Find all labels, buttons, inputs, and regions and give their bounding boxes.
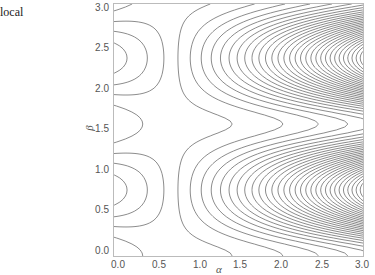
x-tick: 2.0 [269, 259, 293, 270]
caption-label: local [0, 5, 23, 20]
contour-plot [114, 4, 363, 256]
y-tick: 3.0 [89, 2, 109, 13]
y-axis-label: β [83, 125, 95, 130]
x-tick: 1.0 [188, 259, 212, 270]
y-tick: 0.5 [89, 204, 109, 215]
x-tick: 2.5 [310, 259, 334, 270]
x-axis-label: α [216, 263, 222, 275]
x-tick: 0.0 [106, 259, 130, 270]
y-tick: 1.0 [89, 164, 109, 175]
x-tick: 3.0 [350, 259, 374, 270]
y-tick: 2.0 [89, 83, 109, 94]
x-tick: 0.5 [147, 259, 171, 270]
y-tick: 2.5 [89, 42, 109, 53]
x-tick: 1.5 [228, 259, 252, 270]
y-tick: 0.0 [89, 245, 109, 256]
